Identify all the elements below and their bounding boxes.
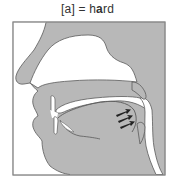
lower-teeth bbox=[54, 117, 58, 134]
vocal-tract-diagram bbox=[0, 0, 175, 184]
